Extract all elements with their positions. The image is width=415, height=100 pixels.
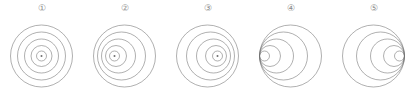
center-dot bbox=[41, 55, 43, 57]
figure-label-5: ⑤ bbox=[332, 2, 415, 14]
inner-circle-4 bbox=[260, 51, 270, 61]
figure-panel-3: ③ bbox=[166, 0, 249, 100]
inner-circle-3 bbox=[106, 46, 127, 67]
inner-circle-1 bbox=[357, 32, 405, 80]
inner-circle-3 bbox=[206, 46, 227, 67]
circle-diagram-1 bbox=[0, 16, 83, 96]
circle-diagram-3 bbox=[166, 16, 249, 96]
inner-circle-3 bbox=[384, 46, 405, 67]
inner-circle-4 bbox=[395, 51, 405, 61]
inner-circle-3 bbox=[260, 46, 281, 67]
outer-circle bbox=[177, 25, 239, 87]
inner-circle-2 bbox=[371, 39, 405, 73]
inner-circle-1 bbox=[260, 32, 308, 80]
outer-circle bbox=[260, 25, 322, 87]
figure-panel-4: ④ bbox=[249, 0, 332, 100]
outer-circle bbox=[343, 25, 405, 87]
inner-circle-2 bbox=[197, 39, 231, 73]
outer-circle bbox=[94, 25, 156, 87]
circle-diagram-2 bbox=[83, 16, 166, 96]
circle-diagram-5 bbox=[332, 16, 415, 96]
figure-label-3: ③ bbox=[166, 2, 249, 14]
figure-label-4: ④ bbox=[249, 2, 332, 14]
center-dot bbox=[114, 55, 116, 57]
figure-panel-2: ② bbox=[83, 0, 166, 100]
center-dot bbox=[217, 55, 219, 57]
figure-panel-5: ⑤ bbox=[332, 0, 415, 100]
inner-circle-2 bbox=[102, 39, 136, 73]
inner-circle-2 bbox=[260, 39, 294, 73]
figure-strip: ①②③④⑤ bbox=[0, 0, 415, 100]
circle-diagram-4 bbox=[249, 16, 332, 96]
figure-label-2: ② bbox=[83, 2, 166, 14]
figure-label-1: ① bbox=[0, 2, 83, 14]
figure-panel-1: ① bbox=[0, 0, 83, 100]
